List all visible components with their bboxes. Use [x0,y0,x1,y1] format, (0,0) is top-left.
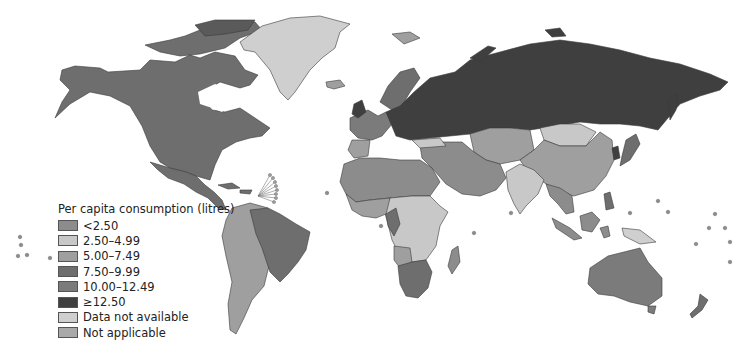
region-southern-africa [398,260,432,298]
region-japan [620,134,640,166]
region-caribbean-2 [240,190,252,194]
region-iberia [348,140,370,158]
legend-label: 10.00–12.49 [83,280,155,294]
region-north-america [55,52,270,180]
legend-label: Not applicable [83,326,166,340]
legend-swatch [58,281,78,292]
legend-swatch [58,266,78,277]
region-sumatra [552,218,582,240]
region-caribbean [218,183,240,189]
map-legend: Per capita consumption (litres) <2.50 2.… [58,202,235,340]
legend-label: <2.50 [83,219,118,233]
legend-item: ≥12.50 [58,294,235,309]
legend-item: Data not available [58,310,235,325]
region-svalbard [392,32,420,44]
caribbean-callouts [258,173,279,203]
legend-label: ≥12.50 [83,295,126,309]
region-new-zealand [690,294,708,318]
region-indonesia-east [600,226,610,238]
legend-item: Not applicable [58,325,235,340]
legend-swatch [58,235,78,246]
region-new-guinea [622,228,656,244]
legend-label: 5.00–7.49 [83,249,140,263]
region-north-africa [340,158,440,202]
legend-item: 5.00–7.49 [58,249,235,264]
region-philippines [604,192,614,210]
region-turkey [412,138,446,148]
legend-item: 7.50–9.99 [58,264,235,279]
legend-label: Data not available [83,310,189,324]
region-madagascar [448,246,460,274]
legend-swatch [58,251,78,262]
region-borneo [580,212,600,232]
legend-item: <2.50 [58,218,235,233]
legend-label: 2.50–4.99 [83,234,140,248]
legend-swatch [58,220,78,231]
legend-swatch [58,297,78,308]
region-arctic-russia [545,28,566,37]
region-tasmania [648,306,656,314]
region-australia [588,248,662,306]
legend-swatch [58,312,78,323]
legend-item: 2.50–4.99 [58,233,235,248]
legend-swatch [58,327,78,338]
legend-item: 10.00–12.49 [58,279,235,294]
legend-label: 7.50–9.99 [83,265,140,279]
region-iceland [326,80,345,89]
legend-title: Per capita consumption (litres) [58,202,235,216]
